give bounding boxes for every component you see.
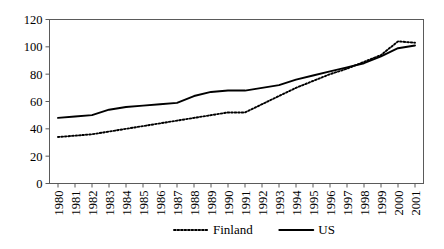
- data-series-layer: [58, 41, 415, 137]
- x-tick-label: 1981: [69, 191, 83, 216]
- y-axis-ticks: [46, 20, 50, 184]
- y-tick-label: 60: [30, 95, 43, 109]
- x-axis-tick-labels: 1980198119821983198419851986198719881989…: [52, 190, 423, 216]
- y-tick-label: 80: [30, 68, 43, 82]
- x-tick-label: 1999: [375, 191, 389, 216]
- x-tick-label: 1990: [222, 191, 236, 216]
- x-tick-label: 1991: [239, 191, 253, 216]
- chart-legend: FinlandUS: [174, 222, 335, 237]
- x-tick-label: 1983: [103, 191, 117, 216]
- x-tick-label: 1986: [154, 191, 168, 216]
- x-tick-label: 1984: [120, 190, 134, 216]
- series-line-finland: [58, 41, 415, 137]
- x-tick-label: 2001: [409, 191, 423, 216]
- y-tick-label: 40: [30, 122, 43, 136]
- x-tick-label: 1993: [273, 191, 287, 216]
- legend-label-us: US: [318, 222, 335, 237]
- x-tick-label: 1996: [324, 191, 338, 216]
- x-axis-ticks: [58, 184, 415, 188]
- y-tick-label: 100: [24, 40, 43, 54]
- legend-label-finland: Finland: [213, 222, 253, 237]
- x-tick-label: 1997: [341, 191, 355, 216]
- y-tick-label: 120: [24, 13, 43, 27]
- x-tick-label: 1994: [290, 190, 304, 216]
- x-tick-label: 1989: [205, 191, 219, 216]
- y-axis-tick-labels: 020406080100120: [24, 13, 43, 191]
- plot-frame: [50, 20, 424, 184]
- x-tick-label: 2000: [392, 191, 406, 216]
- x-tick-label: 1998: [358, 191, 372, 216]
- x-tick-label: 1987: [171, 191, 185, 216]
- series-line-us: [58, 45, 415, 117]
- x-tick-label: 1985: [137, 191, 151, 216]
- x-tick-label: 1992: [256, 191, 270, 216]
- line-chart: 020406080100120 198019811982198319841985…: [0, 0, 444, 249]
- y-tick-label: 0: [36, 177, 42, 191]
- x-tick-label: 1995: [307, 191, 321, 216]
- chart-container: 020406080100120 198019811982198319841985…: [0, 0, 444, 249]
- x-tick-label: 1982: [86, 191, 100, 216]
- x-tick-label: 1980: [52, 191, 66, 216]
- x-tick-label: 1988: [188, 191, 202, 216]
- y-tick-label: 20: [30, 150, 43, 164]
